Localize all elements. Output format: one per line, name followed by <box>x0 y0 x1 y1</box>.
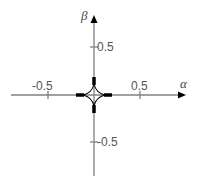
plot-area: -0.5 0.5 0.5 -0.5 β α <box>0 0 198 183</box>
x-tick-label-pos: 0.5 <box>131 79 148 93</box>
y-tick-label-pos: 0.5 <box>97 40 114 54</box>
y-tick-label-neg: -0.5 <box>97 135 118 149</box>
x-tick-label-neg: -0.5 <box>32 79 53 93</box>
y-axis-arrow-icon <box>91 15 98 23</box>
y-axis-label: β <box>80 8 88 23</box>
x-axis-arrow-icon <box>178 92 186 99</box>
x-axis-label: α <box>180 76 188 91</box>
chart: -0.5 0.5 0.5 -0.5 β α <box>0 0 198 183</box>
